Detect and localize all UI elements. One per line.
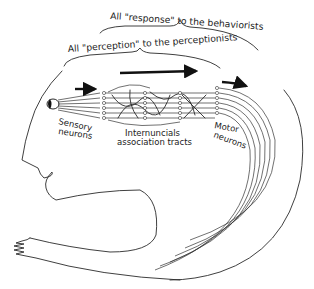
internuncial-label-2: association tracts (117, 137, 193, 147)
diagram: All "response" to the behaviorists All "… (0, 0, 314, 289)
sensory-neurons (58, 93, 100, 118)
hand (14, 238, 180, 280)
internuncial-network (102, 85, 218, 126)
motor-neurons (155, 88, 275, 270)
back-outline (170, 90, 303, 280)
arrow-motor (222, 82, 246, 86)
arrow-internuncial (120, 71, 196, 73)
response-bracket-label: All "response" to the behaviorists (110, 10, 264, 32)
perception-bracket-label: All "perception" to the perceptionists (67, 31, 238, 54)
diagram-svg: All "response" to the behaviorists All "… (0, 0, 314, 289)
